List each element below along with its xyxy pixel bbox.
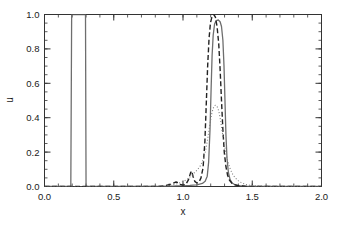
x-tick-label: 1.0 xyxy=(176,191,189,202)
y-tick-label: 0.8 xyxy=(26,43,39,54)
line-chart: 0.00.51.01.52.0 0.00.20.40.60.81.0 x u xyxy=(0,0,340,226)
y-tick-label: 0.4 xyxy=(26,112,39,123)
y-tick-label: 1.0 xyxy=(26,9,39,20)
x-tick-label: 1.5 xyxy=(246,191,259,202)
x-axis-title: x xyxy=(181,206,186,217)
x-tick-label: 2.0 xyxy=(315,191,328,202)
y-tick-label: 0.0 xyxy=(26,181,39,192)
y-tick-label: 0.6 xyxy=(26,78,39,89)
y-tick-label: 0.2 xyxy=(26,147,39,158)
y-axis-title: u xyxy=(4,97,15,103)
x-tick-label: 0.5 xyxy=(107,191,120,202)
chart-figure: 0.00.51.01.52.0 0.00.20.40.60.81.0 x u xyxy=(0,0,340,226)
x-tick-label: 0.0 xyxy=(38,191,51,202)
